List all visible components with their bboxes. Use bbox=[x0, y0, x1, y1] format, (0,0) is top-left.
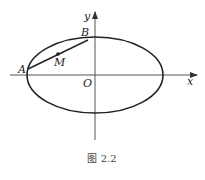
y-axis-label: y bbox=[83, 10, 91, 23]
figure-caption: 图 2.2 bbox=[87, 153, 116, 164]
ellipse-diagram: y x O B A M 图 2.2 bbox=[0, 0, 205, 180]
point-b-label: B bbox=[80, 26, 89, 39]
x-axis-label: x bbox=[187, 75, 194, 88]
point-m-label: M bbox=[53, 56, 66, 69]
point-a-label: A bbox=[17, 63, 26, 76]
origin-label: O bbox=[83, 77, 92, 90]
